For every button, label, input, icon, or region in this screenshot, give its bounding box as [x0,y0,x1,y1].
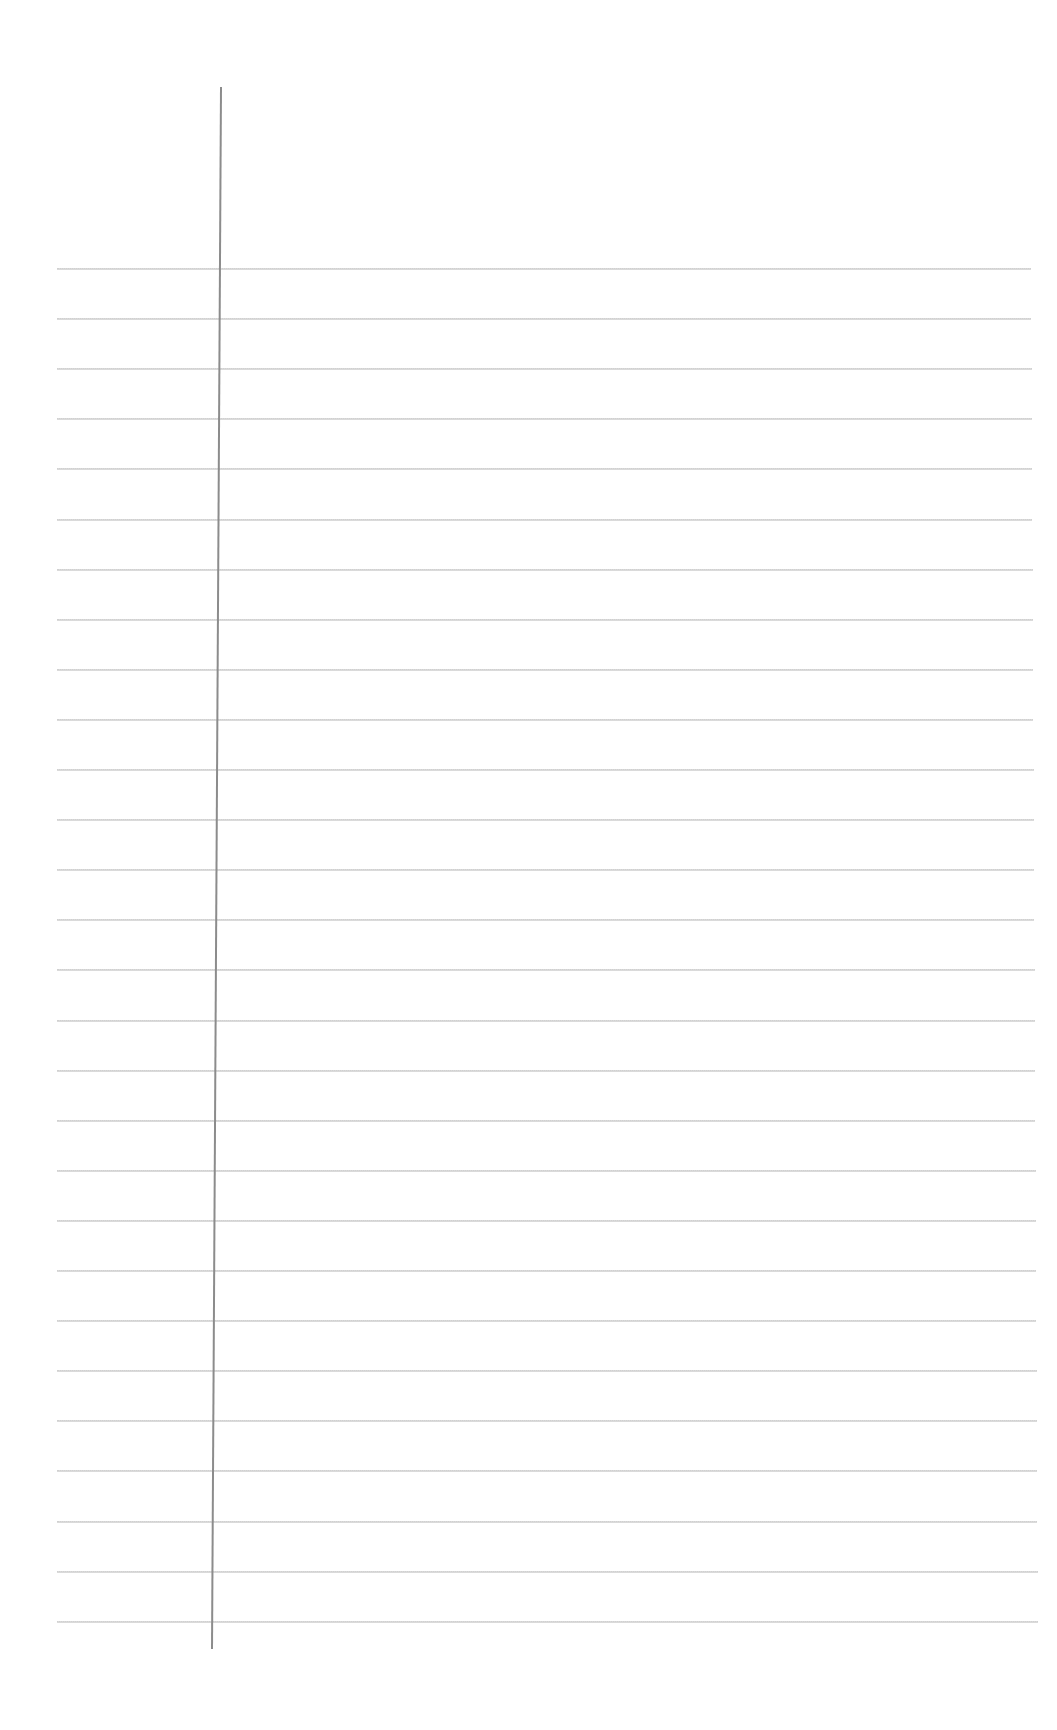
ruled-line [57,769,1034,771]
ruled-line [57,468,1032,470]
ruled-line [57,1521,1037,1523]
ruled-line [57,819,1034,821]
ruled-line [57,1571,1038,1573]
lined-paper-page [0,0,1057,1730]
ruled-line [57,1370,1037,1372]
ruled-line [57,1170,1036,1172]
ruled-line [57,1270,1036,1272]
ruled-line [57,669,1033,671]
ruled-line [57,1020,1035,1022]
ruled-line [57,569,1033,571]
ruled-line [57,418,1032,420]
ruled-line [57,1220,1036,1222]
ruled-line [57,1070,1035,1072]
ruled-line [57,869,1034,871]
ruled-line [57,368,1032,370]
ruled-line [57,268,1031,270]
ruled-line [57,1420,1037,1422]
ruled-line [57,719,1033,721]
ruled-line [57,318,1031,320]
ruled-line [57,519,1032,521]
margin-line [211,87,222,1649]
ruled-line [57,1120,1035,1122]
ruled-line [57,1470,1037,1472]
ruled-line [57,619,1033,621]
ruled-line [57,1320,1036,1322]
ruled-line [57,969,1035,971]
ruled-line [57,919,1034,921]
ruled-line [57,1621,1038,1623]
